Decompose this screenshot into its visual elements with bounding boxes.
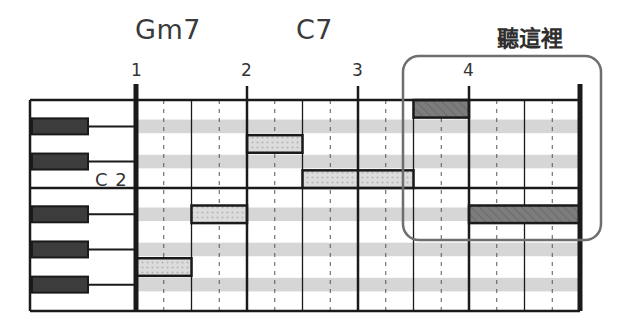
piano-roll (0, 0, 622, 335)
note-E (414, 100, 470, 118)
note-Asharp (469, 206, 580, 224)
note-D (247, 135, 303, 153)
black-key (32, 206, 88, 222)
black-key (32, 277, 88, 293)
octave-label: C 2 (95, 169, 128, 190)
black-key (32, 118, 88, 134)
note-Asharp (192, 206, 248, 224)
black-key (32, 154, 88, 170)
frame (30, 84, 580, 311)
black-key (32, 241, 88, 257)
note-G (136, 258, 192, 276)
